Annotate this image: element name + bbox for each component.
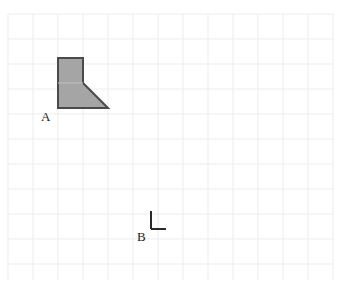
worksheet-figure: figure shown on the grid paper A B <box>0 0 343 286</box>
shape-label-b: B <box>137 230 146 243</box>
canvas-background <box>0 0 343 286</box>
shape-label-a: A <box>41 110 50 123</box>
grid-canvas <box>0 0 343 286</box>
